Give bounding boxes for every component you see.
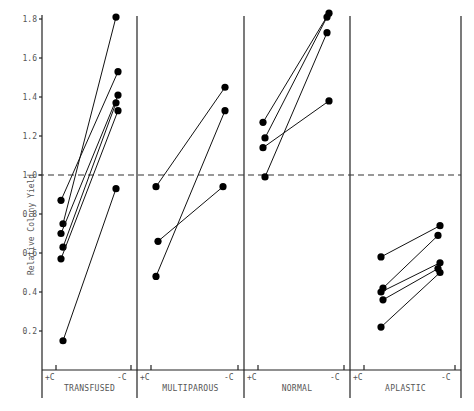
point-plus-c bbox=[57, 197, 64, 204]
y-tick-label: 0.2 bbox=[23, 327, 38, 336]
y-tick-label: 1.8 bbox=[23, 15, 38, 24]
point-plus-c bbox=[152, 273, 159, 280]
point-plus-c bbox=[377, 253, 384, 260]
y-tick-label: 1.2 bbox=[23, 132, 38, 141]
point-plus-c bbox=[259, 144, 266, 151]
pair-line bbox=[265, 33, 327, 177]
pair-line bbox=[61, 72, 118, 201]
point-minus-c bbox=[323, 29, 330, 36]
group-label: APLASTIC bbox=[385, 384, 426, 393]
x-tick-label-plus-c: +C bbox=[45, 373, 55, 382]
x-tick-label-minus-c: -C bbox=[330, 373, 340, 382]
pair-line bbox=[265, 17, 327, 138]
y-tick-label: 0.4 bbox=[23, 288, 38, 297]
group-multiparous: +C-CMULTIPAROUS bbox=[140, 84, 238, 393]
point-plus-c bbox=[377, 288, 384, 295]
pair-line bbox=[383, 269, 438, 300]
point-plus-c bbox=[377, 324, 384, 331]
point-minus-c bbox=[436, 222, 443, 229]
groups: +C-CTRANSFUSED+C-CMULTIPAROUS+C-CNORMAL+… bbox=[45, 10, 455, 393]
axes bbox=[42, 15, 461, 398]
point-plus-c bbox=[379, 296, 386, 303]
group-label: MULTIPAROUS bbox=[162, 384, 218, 393]
y-tick-label: 1.4 bbox=[23, 93, 38, 102]
x-tick-label-minus-c: -C bbox=[224, 373, 234, 382]
pair-line bbox=[63, 189, 116, 341]
point-minus-c bbox=[221, 107, 228, 114]
point-minus-c bbox=[114, 91, 121, 98]
point-minus-c bbox=[112, 13, 119, 20]
point-plus-c bbox=[57, 255, 64, 262]
point-minus-c bbox=[325, 97, 332, 104]
group-label: TRANSFUSED bbox=[64, 384, 115, 393]
x-tick-label-plus-c: +C bbox=[140, 373, 150, 382]
point-minus-c bbox=[221, 84, 228, 91]
pair-line bbox=[156, 87, 225, 186]
group-transfused: +C-CTRANSFUSED bbox=[45, 13, 131, 393]
group-normal: +C-CNORMAL bbox=[247, 10, 344, 393]
x-tick-label-plus-c: +C bbox=[247, 373, 257, 382]
x-tick-label-minus-c: -C bbox=[117, 373, 127, 382]
point-plus-c bbox=[259, 119, 266, 126]
point-plus-c bbox=[59, 337, 66, 344]
point-minus-c bbox=[219, 183, 226, 190]
point-minus-c bbox=[434, 232, 441, 239]
point-plus-c bbox=[154, 238, 161, 245]
pair-line bbox=[61, 95, 118, 233]
point-plus-c bbox=[57, 230, 64, 237]
point-plus-c bbox=[261, 173, 268, 180]
point-minus-c bbox=[323, 13, 330, 20]
point-minus-c bbox=[114, 68, 121, 75]
pair-line bbox=[61, 111, 118, 259]
x-tick-label-plus-c: +C bbox=[353, 373, 363, 382]
point-plus-c bbox=[261, 134, 268, 141]
pair-line bbox=[381, 273, 440, 328]
x-tick-label-minus-c: -C bbox=[441, 373, 451, 382]
pair-line bbox=[383, 235, 438, 288]
group-label: NORMAL bbox=[282, 384, 313, 393]
point-plus-c bbox=[152, 183, 159, 190]
point-minus-c bbox=[112, 185, 119, 192]
point-minus-c bbox=[436, 269, 443, 276]
pair-line bbox=[381, 263, 440, 292]
y-tick-label: 1.6 bbox=[23, 54, 38, 63]
pair-line bbox=[158, 187, 223, 242]
pair-line bbox=[263, 101, 329, 148]
y-axis-label: Relative Colony Yield bbox=[27, 174, 36, 275]
chart: 0.20.40.60.81.01.21.41.61.8 Relative Col… bbox=[0, 0, 474, 411]
pair-line bbox=[381, 226, 440, 257]
point-minus-c bbox=[112, 99, 119, 106]
point-minus-c bbox=[114, 107, 121, 114]
group-aplastic: +C-CAPLASTIC bbox=[353, 222, 455, 393]
